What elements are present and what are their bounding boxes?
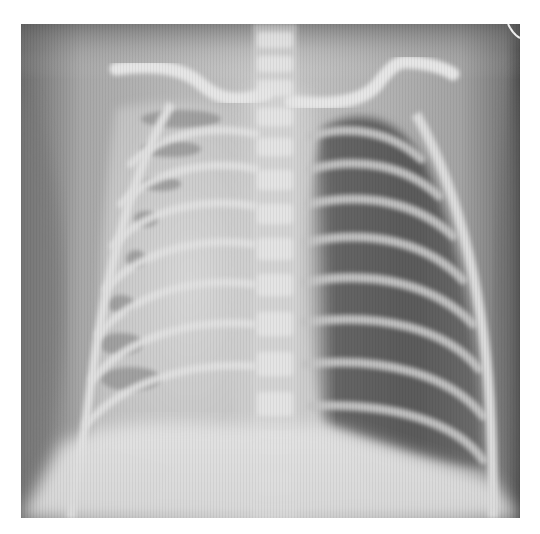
xray-image — [21, 24, 520, 518]
grid-texture — [21, 24, 520, 518]
xray-drawing — [21, 24, 520, 518]
